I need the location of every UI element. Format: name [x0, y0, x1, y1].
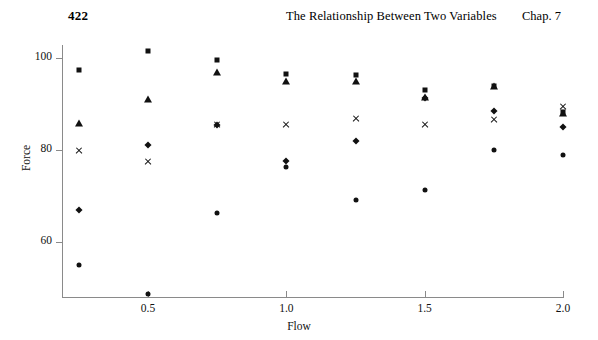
- data-point-square: [146, 49, 151, 54]
- data-point-square: [284, 72, 289, 77]
- data-point-triangle: [282, 77, 290, 84]
- x-tick-mark: [563, 291, 564, 297]
- data-point-cross: [352, 114, 360, 122]
- x-tick-label: 1.0: [266, 302, 306, 314]
- page-number: 422: [68, 8, 88, 24]
- data-point-cross: [421, 121, 429, 129]
- data-point-diamond: [75, 206, 82, 213]
- data-point-triangle: [352, 77, 360, 84]
- data-point-circle: [284, 165, 289, 170]
- running-head-chapter: Chap. 7: [522, 9, 561, 24]
- data-point-square: [76, 68, 81, 73]
- data-point-triangle: [213, 68, 221, 75]
- data-point-cross: [559, 103, 567, 111]
- running-head-title: The Relationship Between Two Variables: [286, 9, 497, 24]
- data-point-triangle: [75, 120, 83, 127]
- data-point-square: [215, 57, 220, 62]
- data-point-diamond: [559, 123, 566, 130]
- x-tick-label: 0.5: [128, 302, 168, 314]
- plot-area: [62, 45, 563, 297]
- data-point-circle: [353, 198, 358, 203]
- data-point-cross: [490, 116, 498, 124]
- page-canvas: 422 The Relationship Between Two Variabl…: [0, 0, 598, 340]
- data-point-circle: [491, 148, 496, 153]
- x-tick-label: 2.0: [543, 302, 583, 314]
- data-point-diamond: [283, 157, 290, 164]
- y-axis-title: Force: [20, 125, 32, 191]
- data-point-cross: [144, 158, 152, 166]
- data-point-diamond: [144, 142, 151, 149]
- data-point-cross: [75, 147, 83, 155]
- x-axis-title: Flow: [0, 320, 598, 332]
- data-point-diamond: [490, 107, 497, 114]
- running-head: 422 The Relationship Between Two Variabl…: [0, 8, 598, 34]
- data-point-circle: [561, 152, 566, 157]
- y-tick-label: 100: [18, 50, 52, 62]
- data-point-triangle: [490, 82, 498, 89]
- data-point-cross: [282, 121, 290, 129]
- data-point-circle: [422, 188, 427, 193]
- data-point-diamond: [352, 137, 359, 144]
- data-point-circle: [146, 291, 151, 296]
- x-axis-line: [62, 297, 564, 298]
- data-point-circle: [76, 263, 81, 268]
- scatter-plot: 1008060 0.51.01.52.0 Force Flow: [0, 34, 598, 340]
- data-point-square: [422, 88, 427, 93]
- data-point-circle: [215, 211, 220, 216]
- data-point-triangle: [144, 96, 152, 103]
- y-tick-label: 60: [18, 234, 52, 246]
- x-tick-label: 1.5: [405, 302, 445, 314]
